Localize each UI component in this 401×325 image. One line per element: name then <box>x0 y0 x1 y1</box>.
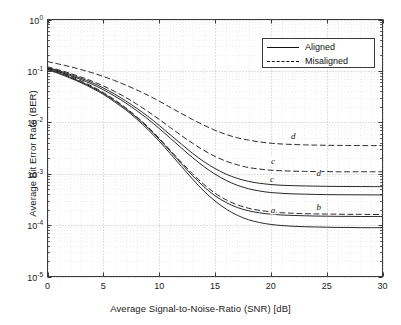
curve-label-c-dashed: c <box>271 157 276 166</box>
curve-a <box>48 70 383 228</box>
legend: Aligned Misaligned <box>262 38 375 68</box>
curve-d-solid <box>48 68 383 187</box>
legend-solid-line-icon <box>267 47 299 48</box>
x-tick-label: 5 <box>101 281 106 291</box>
curve-d-dashed <box>48 62 383 146</box>
curve-label-a: a <box>270 206 276 215</box>
y-axis-title: Average Bit Error Rate (BER) <box>27 34 38 274</box>
legend-dashed-line-icon <box>267 61 299 62</box>
curves-layer <box>48 62 383 228</box>
curve-label-d-solid: d <box>316 168 322 177</box>
curve-label-b-solid: b <box>316 202 322 211</box>
legend-item-misaligned: Misaligned <box>267 54 370 68</box>
ber-vs-snr-figure: 051015202530 10010-110-210-310-410-5 abc… <box>0 0 401 325</box>
x-tick-label: 30 <box>377 281 387 291</box>
curve-c-dashed <box>48 67 383 172</box>
x-tick-label: 10 <box>154 281 164 291</box>
x-axis-title: Average Signal-to-Noise-Ratio (SNR) [dB] <box>0 303 401 314</box>
x-tick-label: 20 <box>266 281 276 291</box>
x-tick-label: 25 <box>322 281 332 291</box>
legend-label-misaligned: Misaligned <box>305 56 348 66</box>
legend-label-aligned: Aligned <box>305 42 335 52</box>
legend-item-aligned: Aligned <box>267 40 370 54</box>
x-tick-label: 0 <box>45 281 50 291</box>
x-tick-label: 15 <box>210 281 220 291</box>
curve-label-c-solid: c <box>269 174 274 183</box>
curve-label-d-dashed: d <box>290 132 296 141</box>
curve-c-solid <box>48 68 383 195</box>
y-tick-label: 100 <box>4 14 43 26</box>
